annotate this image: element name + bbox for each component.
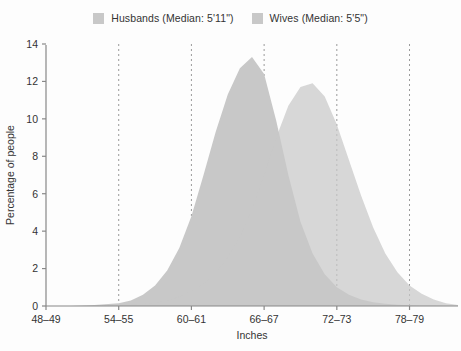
x-axis-title: Inches bbox=[237, 329, 268, 341]
y-tick-label: 2 bbox=[32, 262, 38, 274]
y-tick-label: 12 bbox=[26, 75, 38, 87]
height-distribution-chart: Husbands (Median: 5'11") Wives (Median: … bbox=[0, 0, 461, 351]
series-areas bbox=[46, 57, 458, 306]
y-axis-title: Percentage of people bbox=[4, 125, 16, 225]
plot-area: 02468101214 48–4954–5560–6166–6772–7378–… bbox=[0, 0, 461, 351]
y-tick-label: 14 bbox=[26, 38, 38, 50]
y-tick-label: 0 bbox=[32, 300, 38, 312]
y-tick-label: 8 bbox=[32, 150, 38, 162]
x-axis: 48–4954–5560–6166–6772–7378–79 bbox=[31, 306, 458, 325]
x-tick-label: 54–55 bbox=[104, 313, 133, 325]
x-tick-label: 66–67 bbox=[250, 313, 279, 325]
x-tick-label: 48–49 bbox=[31, 313, 60, 325]
y-tick-label: 4 bbox=[32, 225, 38, 237]
x-tick-label: 72–73 bbox=[322, 313, 351, 325]
x-tick-label: 78–79 bbox=[395, 313, 424, 325]
x-tick-label: 60–61 bbox=[177, 313, 206, 325]
y-tick-label: 6 bbox=[32, 188, 38, 200]
y-axis: 02468101214 bbox=[26, 38, 46, 312]
y-tick-label: 10 bbox=[26, 113, 38, 125]
